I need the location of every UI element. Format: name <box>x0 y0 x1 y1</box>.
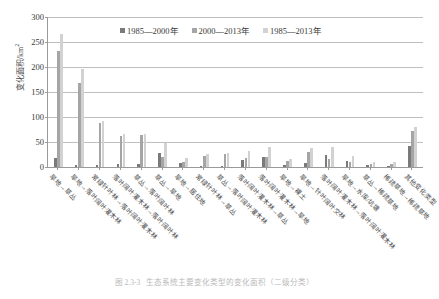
bar <box>352 156 355 168</box>
legend-label: 1985—2013年 <box>270 24 322 36</box>
legend-item: 1985—2013年 <box>263 24 322 36</box>
y-axis-tick-label: 100 <box>31 112 44 122</box>
bar <box>144 134 147 168</box>
bar <box>268 147 271 167</box>
plot-area: 050100150200250300 <box>47 17 423 168</box>
bar <box>185 158 188 168</box>
bar <box>102 121 105 168</box>
bar-group <box>110 17 131 167</box>
legend-swatch <box>263 28 268 33</box>
bar <box>164 143 167 167</box>
legend-swatch <box>192 28 197 33</box>
bar-groups <box>48 17 423 167</box>
legend-label: 2000—2013年 <box>199 24 251 36</box>
bar-group <box>340 17 361 167</box>
bar-group <box>298 17 319 167</box>
chart-legend: 1985—2000年2000—2013年1985—2013年 <box>120 24 322 36</box>
bar-group <box>277 17 298 167</box>
y-axis-title-superscript: 2 <box>14 44 20 47</box>
legend-swatch <box>120 28 125 33</box>
legend-label: 1985—2000年 <box>127 24 179 36</box>
bar-group <box>173 17 194 167</box>
bar-group <box>194 17 215 167</box>
y-axis-tick-label: 50 <box>36 137 45 147</box>
figure-number: 图 2.3-3 <box>115 278 141 287</box>
bar-group <box>360 17 381 167</box>
y-axis-tick-label: 250 <box>31 37 44 47</box>
bar <box>81 69 84 168</box>
legend-item: 1985—2000年 <box>120 24 179 36</box>
bar-group <box>402 17 423 167</box>
bar-group <box>381 17 402 167</box>
y-axis-title: 变化面积/km2 <box>14 23 25 113</box>
bar <box>414 127 417 167</box>
bar <box>227 153 230 168</box>
bar-group <box>90 17 111 167</box>
figure-caption-text: 生态系统主要变化类型的变化面积（二级分类） <box>146 278 314 287</box>
figure-caption: 图 2.3-3生态系统主要变化类型的变化面积（二级分类） <box>0 276 429 287</box>
bar <box>123 134 126 168</box>
chart-figure: 变化面积/km2 050100150200250300 1985—2000年20… <box>0 0 429 270</box>
bar <box>60 34 63 168</box>
bar-group <box>131 17 152 167</box>
bar <box>206 154 209 167</box>
y-axis-tick-label: 150 <box>31 87 44 97</box>
y-axis-tick-label: 300 <box>31 12 44 22</box>
bar-group <box>48 17 69 167</box>
bar <box>289 159 292 168</box>
x-axis-labels: 旱地→草丛旱地→落叶阔叶灌木林常绿针叶林→落叶阔叶灌木林落叶阔叶灌木林→落叶阔叶… <box>47 171 422 263</box>
bar <box>310 148 313 168</box>
bar-group <box>235 17 256 167</box>
bar-group <box>215 17 236 167</box>
bar <box>331 147 334 167</box>
y-axis-tick-label: 0 <box>40 162 44 172</box>
y-axis-title-text: 变化面积/km <box>16 47 25 91</box>
y-axis-tick-label: 200 <box>31 62 44 72</box>
bar-group <box>256 17 277 167</box>
bar-group <box>319 17 340 167</box>
bar <box>248 151 251 167</box>
bar-group <box>69 17 90 167</box>
legend-item: 2000—2013年 <box>192 24 251 36</box>
bar-group <box>152 17 173 167</box>
